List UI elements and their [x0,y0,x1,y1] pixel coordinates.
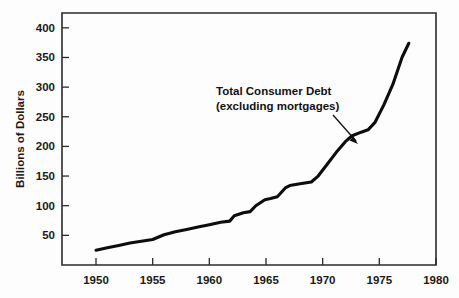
x-tick-label: 1950 [83,274,109,286]
x-tick-label: 1980 [423,274,449,286]
x-tick-label: 1960 [197,274,223,286]
x-tick-label: 1965 [253,274,279,286]
y-axis-title: Billions of Dollars [14,90,26,188]
y-tick-label: 400 [36,22,55,34]
x-tick-label: 1970 [310,274,336,286]
y-tick-label: 250 [36,111,55,123]
annotation-line-1: Total Consumer Debt [216,85,332,97]
y-tick-label: 300 [36,81,55,93]
y-tick-label: 200 [36,140,55,152]
x-tick-label: 1975 [367,274,393,286]
chart-background [0,0,459,298]
chart-page: 50100150200250300350400 1950195519601965… [0,0,459,298]
y-tick-label: 100 [36,200,55,212]
annotation-line-2: (excluding mortgages) [216,100,339,112]
y-tick-label: 150 [36,170,55,182]
x-tick-label: 1955 [140,274,166,286]
y-tick-label: 350 [36,51,55,63]
consumer-debt-line-chart: 50100150200250300350400 1950195519601965… [0,0,459,298]
y-tick-label: 50 [42,229,55,241]
